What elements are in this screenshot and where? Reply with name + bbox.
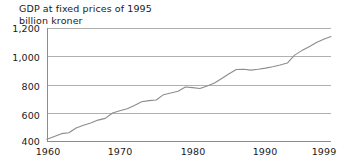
chart-container: GDP at fixed prices of 1995 billion kron…: [0, 0, 347, 165]
plot-area: [0, 0, 347, 165]
gridlines: [47, 29, 331, 114]
gdp-data-line: [47, 36, 331, 139]
